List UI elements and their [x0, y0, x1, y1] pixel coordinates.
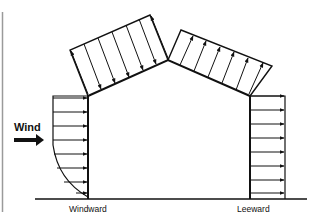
windward-roof-arrows — [84, 19, 156, 89]
leeward-roof-arrows — [180, 36, 263, 94]
wind-direction-arrow — [14, 134, 44, 146]
leeward-wall-profile — [250, 96, 285, 199]
leeward-label: Leeward — [237, 204, 270, 214]
wind-label: Wind — [14, 121, 41, 133]
windward-wall-arrows — [53, 98, 87, 193]
diagram-svg — [0, 0, 317, 221]
building-outline — [88, 60, 250, 199]
wind-load-diagram: Wind Windward Leeward — [0, 0, 317, 221]
leeward-roof-profile — [168, 30, 272, 96]
leeward-wall-arrows — [251, 96, 284, 193]
windward-label: Windward — [69, 204, 107, 214]
